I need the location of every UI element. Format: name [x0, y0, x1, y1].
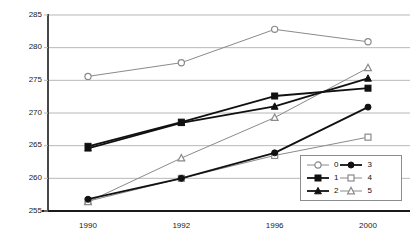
data-point-0-1992	[178, 60, 184, 66]
legend-marker-4	[338, 172, 364, 184]
chart-legend[interactable]: 012345	[300, 155, 402, 201]
legend-marker-2	[305, 185, 331, 197]
line-chart: 255260265270275280285 1990199219962000 0…	[0, 0, 420, 243]
y-tick-label: 275	[14, 75, 42, 84]
x-tick-label: 1990	[68, 221, 108, 230]
legend-marker-1	[305, 172, 331, 184]
y-tick-label: 270	[14, 108, 42, 117]
y-tick-label: 255	[14, 206, 42, 215]
legend-label-3: 3	[367, 159, 371, 171]
legend-entry-1[interactable]: 1	[305, 171, 338, 184]
data-point-5-1996	[271, 114, 278, 120]
x-tick-label: 2000	[348, 221, 388, 230]
data-point-1-1996	[272, 93, 278, 99]
legend-column-0: 012	[305, 158, 338, 198]
y-tick-label: 280	[14, 42, 42, 51]
data-point-0-1996	[272, 26, 278, 32]
data-point-3-1992	[178, 175, 184, 181]
legend-entry-3[interactable]: 3	[338, 158, 371, 171]
legend-marker-0	[305, 159, 331, 171]
gridlines	[48, 15, 410, 178]
data-point-2-2000	[365, 75, 372, 81]
legend-label-4: 4	[367, 172, 371, 184]
data-point-0-2000	[365, 39, 371, 45]
legend-label-5: 5	[367, 185, 371, 197]
data-point-legend-3	[348, 162, 354, 168]
legend-entry-5[interactable]: 5	[338, 185, 371, 198]
plot-area	[0, 0, 420, 243]
y-tick-label: 265	[14, 140, 42, 149]
series-line-0	[88, 29, 368, 76]
y-tick-label: 260	[14, 173, 42, 182]
y-tick-label: 285	[14, 10, 42, 19]
data-point-legend-4	[348, 175, 354, 181]
legend-entry-0[interactable]: 0	[305, 158, 338, 171]
data-point-3-1996	[272, 150, 278, 156]
x-tick-label: 1992	[161, 221, 201, 230]
data-point-1-2000	[365, 85, 371, 91]
data-point-4-2000	[365, 134, 371, 140]
data-point-3-1990	[85, 196, 91, 202]
legend-marker-3	[338, 159, 364, 171]
legend-marker-5	[338, 185, 364, 197]
legend-entry-4[interactable]: 4	[338, 171, 371, 184]
data-point-legend-0	[315, 162, 321, 168]
x-tick-label: 1996	[255, 221, 295, 230]
data-point-5-1992	[178, 154, 185, 160]
series-0	[85, 26, 371, 79]
data-point-3-2000	[365, 104, 371, 110]
data-point-5-2000	[365, 64, 372, 70]
data-point-legend-1	[315, 175, 321, 181]
legend-entry-2[interactable]: 2	[305, 185, 338, 198]
series-1	[85, 85, 371, 149]
data-point-0-1990	[85, 73, 91, 79]
legend-column-1: 345	[338, 158, 371, 198]
